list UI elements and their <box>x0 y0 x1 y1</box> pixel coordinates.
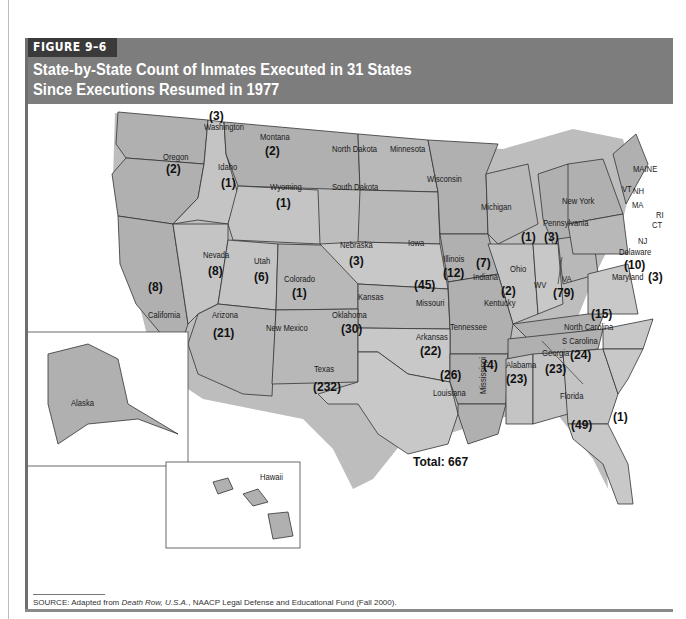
kentucky-count: (2) <box>501 284 516 298</box>
ohio-label: Ohio <box>510 264 526 274</box>
louisiana-count: (26) <box>440 368 461 382</box>
oklahoma-label: Oklahoma <box>332 310 367 320</box>
frame-bottom-border <box>25 609 673 612</box>
maryland-label: Maryland <box>612 272 643 282</box>
alabama-label: Alabama <box>506 360 536 370</box>
north-dakota-label: North Dakota <box>332 144 377 154</box>
north-carolina-count: (15) <box>591 307 612 321</box>
idaho-label: Idaho <box>218 162 237 172</box>
florida-label: Florida <box>560 391 583 401</box>
ohio-count: (1) <box>521 230 536 244</box>
illinois-label: Illinois <box>443 254 464 264</box>
figure-title-line1: State-by-State Count of Inmates Executed… <box>33 60 412 80</box>
tennessee-count: (1) <box>613 410 628 424</box>
us-map: (3) Washington Oregon (2) Idaho (1) Mont… <box>28 104 673 574</box>
colorado-label: Colorado <box>284 274 315 284</box>
alabama-count: (23) <box>506 372 527 386</box>
oklahoma-count: (30) <box>341 322 362 336</box>
pennsylvania-count: (3) <box>544 230 559 244</box>
va-label: VA <box>562 274 572 284</box>
oregon-count: (2) <box>166 162 181 176</box>
source-prefix: SOURCE: Adapted from <box>33 598 121 607</box>
ma-label: MA <box>632 200 643 210</box>
hawaii-label: Hawaii <box>260 472 283 482</box>
nh-label: NH <box>633 186 644 196</box>
ri-label: RI <box>656 210 664 220</box>
delaware-count: (10) <box>624 258 645 272</box>
new-york-label: New York <box>562 196 594 206</box>
minnesota-label: Minnesota <box>390 144 425 154</box>
utah-count: (6) <box>254 270 269 284</box>
arizona-count: (21) <box>213 326 234 340</box>
alaska-label: Alaska <box>71 398 94 408</box>
source-title: Death Row, U.S.A. <box>121 598 188 607</box>
michigan-label: Michigan <box>481 202 512 212</box>
washington-label: Washington <box>204 122 244 132</box>
arizona-label: Arizona <box>212 310 238 320</box>
wyoming-label: Wyoming <box>270 182 302 192</box>
va-count: (79) <box>553 286 574 300</box>
wisconsin-label: Wisconsin <box>427 174 462 184</box>
missouri-label: Missouri <box>416 298 444 308</box>
idaho-count: (1) <box>221 176 236 190</box>
utah-label: Utah <box>254 256 270 266</box>
nj-label: NJ <box>638 236 647 246</box>
maryland-count: (3) <box>648 270 663 284</box>
texas-count: (232) <box>313 380 341 394</box>
montana-count: (2) <box>265 144 280 158</box>
florida-count: (49) <box>571 418 592 432</box>
pennsylvania-label: Pennsylvania <box>543 218 589 228</box>
indiana-count: (7) <box>476 256 491 270</box>
colorado-count: (1) <box>292 286 307 300</box>
kansas-label: Kansas <box>358 292 384 302</box>
page-edge <box>8 0 9 619</box>
arkansas-count: (22) <box>420 344 441 358</box>
louisiana-label: Louisiana <box>433 388 466 398</box>
figure-title: State-by-State Count of Inmates Executed… <box>33 60 412 100</box>
south-dakota-label: South Dakota <box>332 182 378 192</box>
arkansas-label: Arkansas <box>416 332 448 342</box>
total-label: Total: 667 <box>413 455 468 469</box>
washington-count: (3) <box>209 109 224 123</box>
nevada-label: Nevada <box>203 250 229 260</box>
kentucky-label: Kentucky <box>484 298 515 308</box>
nebraska-label: Nebraska <box>340 240 373 250</box>
georgia-label: Georgia <box>542 348 569 358</box>
georgia-count: (23) <box>545 362 566 376</box>
vt-label: VT <box>622 184 632 194</box>
wyoming-count: (1) <box>276 196 291 210</box>
nevada-count: (8) <box>208 264 223 278</box>
texas-label: Texas <box>314 364 334 374</box>
figure-header: FIGURE 9–6 State-by-State Count of Inmat… <box>25 38 673 104</box>
tennessee-label: Tennessee <box>450 322 487 332</box>
california-label: California <box>148 310 180 320</box>
s-carolina-label: S Carolina <box>562 336 598 346</box>
iowa-label: Iowa <box>408 238 424 248</box>
figure-label: FIGURE 9–6 <box>25 38 117 57</box>
mississippi-count: (4) <box>483 358 498 372</box>
montana-label: Montana <box>260 132 290 142</box>
figure-title-line2: Since Executions Resumed in 1977 <box>33 80 412 100</box>
california-count: (8) <box>148 280 163 294</box>
oregon-label: Oregon <box>163 152 189 162</box>
s-carolina-count: (24) <box>570 348 591 362</box>
new-mexico-label: New Mexico <box>266 323 308 333</box>
indiana-label: Indiana <box>473 272 498 282</box>
wv-label: WV <box>534 280 546 290</box>
nebraska-count: (3) <box>349 254 364 268</box>
ct-label: CT <box>652 220 662 230</box>
source-rule <box>33 594 105 595</box>
missouri-count: (45) <box>414 278 435 292</box>
delaware-label: Delaware <box>619 247 651 257</box>
source-note: SOURCE: Adapted from Death Row, U.S.A., … <box>33 598 397 607</box>
maine-label: MAINE <box>633 164 657 174</box>
illinois-count: (12) <box>443 266 464 280</box>
source-suffix: , NAACP Legal Defense and Educational Fu… <box>188 598 396 607</box>
north-carolina-label: North Carolina <box>564 322 613 332</box>
